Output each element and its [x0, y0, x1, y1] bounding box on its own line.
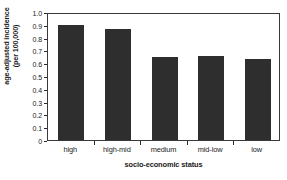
plot-area: [47, 13, 280, 141]
x-axis-title: socio-economic status: [47, 160, 280, 169]
bar-medium: [152, 57, 178, 140]
y-axis-tick-label: 0.2: [22, 112, 42, 119]
y-axis-tick-labels: 1.00.90.80.70.60.50.40.30.20.10: [22, 13, 42, 141]
bar-high-mid: [105, 29, 131, 140]
y-axis-title-line-2: (per 100,000): [11, 0, 20, 104]
y-axis-tick-label: 0.3: [22, 99, 42, 106]
y-axis-tick-label: 1.0: [22, 10, 42, 17]
x-axis-category-label: high: [47, 145, 94, 155]
x-axis-tick-mark: [94, 141, 95, 145]
bar-chart-figure: age-adjusted incidence (per 100,000) 1.0…: [0, 0, 287, 180]
x-axis-tick-mark: [187, 141, 188, 145]
y-axis-tick-label: 0.4: [22, 86, 42, 93]
x-axis-tick-mark: [140, 141, 141, 145]
y-axis-tick-label: 0.7: [22, 48, 42, 55]
x-axis-category-labels: highhigh-midmediummid-lowlow: [47, 145, 280, 157]
x-axis-category-label: low: [233, 145, 280, 155]
bars-container: [48, 14, 279, 140]
bar-high: [58, 25, 84, 140]
y-axis-tick-label: 0.6: [22, 61, 42, 68]
y-axis-tick-label: 0: [22, 138, 42, 145]
x-axis-category-label: medium: [140, 145, 187, 155]
y-axis-title-line-1: age-adjusted incidence: [2, 0, 11, 104]
y-axis-tick-label: 0.8: [22, 35, 42, 42]
bar-low: [245, 59, 271, 140]
x-axis-category-label: mid-low: [187, 145, 234, 155]
x-axis-tick-mark: [233, 141, 234, 145]
y-axis-tick-label: 0.5: [22, 74, 42, 81]
y-axis-tick-label: 0.1: [22, 125, 42, 132]
y-axis-tick-label: 0.9: [22, 22, 42, 29]
bar-mid-low: [198, 56, 224, 140]
x-axis-category-label: high-mid: [94, 145, 141, 155]
